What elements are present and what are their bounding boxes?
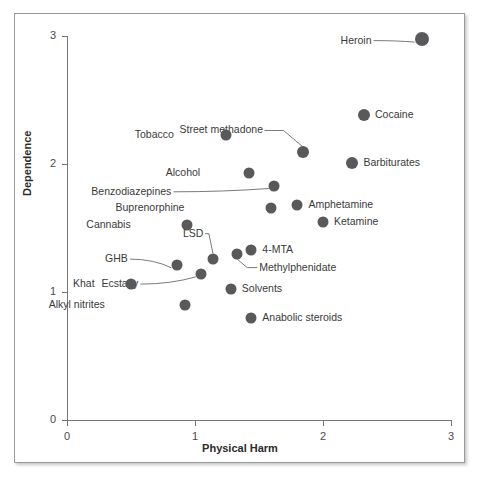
leader-line [237,259,257,268]
x-tick-label-3: 3 [441,430,461,442]
leader-line [130,259,172,268]
data-point-label: Cannabis [86,218,130,230]
x-tick-3 [451,420,452,426]
y-tick-label-2: 2 [36,157,56,169]
leader-line [205,234,213,254]
data-point[interactable] [126,279,137,290]
scatter-plot: 3 2 1 0 0 1 2 3 Dependence Physical Harm… [0,0,480,479]
y-tick-label-3: 3 [36,29,56,41]
data-point[interactable] [220,129,231,140]
data-point[interactable] [269,180,280,191]
leader-lines [0,0,480,479]
data-point[interactable] [346,157,358,169]
data-point-label: Methylphenidate [259,261,336,273]
data-point[interactable] [358,109,370,121]
data-point[interactable] [243,167,254,178]
x-axis-title: Physical Harm [0,442,480,454]
data-point-label: Barbiturates [363,156,420,168]
data-point-label: Alkyl nitrites [49,298,105,310]
data-point-label: LSD [183,227,203,239]
data-point[interactable] [232,248,243,259]
leader-line [140,277,196,284]
leader-line [173,189,269,192]
data-point-label: Buprenorphine [116,201,185,213]
data-point[interactable] [415,32,429,46]
data-point-label: GHB [105,252,128,264]
x-tick-label-0: 0 [57,430,77,442]
x-tick-label-2: 2 [313,430,333,442]
y-tick-3 [62,36,68,37]
data-point-label: Khat [73,277,95,289]
x-tick-1 [195,420,196,426]
chart-page: 3 2 1 0 0 1 2 3 Dependence Physical Harm… [0,0,480,479]
data-point-label: Tobacco [135,128,174,140]
leader-line [265,131,303,147]
data-point[interactable] [207,253,218,264]
y-axis-line [67,36,68,421]
x-tick-label-1: 1 [185,430,205,442]
y-tick-1 [62,292,68,293]
data-point[interactable] [246,244,257,255]
x-tick-2 [323,420,324,426]
data-point[interactable] [292,199,303,210]
data-point-label: 4-MTA [262,243,293,255]
data-point-label: Alcohol [166,166,200,178]
leader-line [374,41,415,43]
data-point[interactable] [297,146,309,158]
y-tick-2 [62,164,68,165]
data-point[interactable] [196,269,207,280]
y-axis-title: Dependence [21,131,33,196]
data-point-label: Cocaine [375,108,414,120]
x-tick-0 [67,420,68,426]
data-point[interactable] [225,284,236,295]
data-point-label: Amphetamine [308,198,373,210]
data-point[interactable] [179,299,190,310]
y-tick-label-0: 0 [36,413,56,425]
data-point-label: Heroin [341,34,372,46]
data-point-label: Benzodiazepines [91,185,171,197]
y-tick-label-1: 1 [36,285,56,297]
data-point-label: Anabolic steroids [262,311,342,323]
data-point-label: Ketamine [334,215,378,227]
x-axis-line [67,420,452,421]
data-point-label: Solvents [242,282,282,294]
data-point[interactable] [172,260,183,271]
data-point[interactable] [318,216,329,227]
data-point[interactable] [246,312,257,323]
data-point[interactable] [265,202,276,213]
